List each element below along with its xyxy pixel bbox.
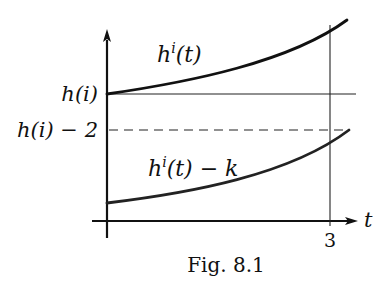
x-axis-label: t [364,208,373,232]
upper-curve-label: hi(t) [157,40,202,67]
y-axis [103,29,111,238]
curve-h-i-t [107,20,347,94]
y-tick-label-h-i: h(i) [61,82,98,106]
x-tick-label-3: 3 [324,229,336,251]
y-tick-label-h-i-minus-2: h(i) − 2 [17,118,98,142]
lower-curve-label: hi(t) − k [148,154,238,181]
figure-caption: Fig. 8.1 [187,253,265,277]
figure-8-1: h(i) h(i) − 2 hi(t) hi(t) − k t 3 Fig. 8… [0,0,383,294]
x-axis [92,217,358,225]
